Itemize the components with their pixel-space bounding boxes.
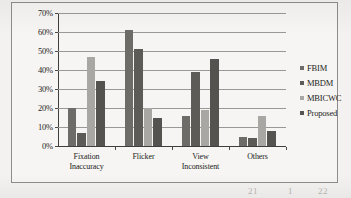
legend-square-marker-icon	[300, 96, 304, 100]
x-axis-category-label: Others	[229, 152, 286, 162]
bar	[125, 30, 134, 146]
x-axis-category-label: View	[172, 152, 229, 162]
bar	[191, 72, 200, 146]
bar	[134, 49, 143, 146]
plot-area: 0%10%20%30%40%50%60%70% FixationInaccura…	[58, 13, 286, 147]
y-axis-tick-label: 10%	[38, 122, 53, 132]
y-axis-tick-label: 20%	[38, 103, 53, 113]
bar	[267, 131, 276, 146]
scan-bleed-text: 21 1 22	[0, 186, 351, 198]
legend-square-marker-icon	[300, 81, 304, 85]
y-axis-tick	[55, 146, 58, 147]
bar	[87, 57, 96, 146]
chart-legend: FBIMMBDMMBICWCProposed	[300, 61, 351, 121]
legend-item[interactable]: Proposed	[300, 106, 351, 120]
x-axis-tick	[229, 147, 230, 150]
x-axis-tick	[286, 147, 287, 150]
legend-item[interactable]: FBIM	[300, 61, 351, 75]
bar	[153, 118, 162, 147]
legend-item[interactable]: MBDM	[300, 76, 351, 90]
bar	[210, 59, 219, 146]
y-axis-tick-label: 0%	[42, 141, 53, 151]
bar	[68, 108, 77, 146]
legend-item[interactable]: MBICWC	[300, 91, 351, 105]
x-axis-category-label-line2: Inaccuracy	[58, 162, 115, 172]
x-axis-category-label-line2: Inconsistent	[172, 162, 229, 172]
scan-artifact-2: 1	[288, 186, 293, 196]
x-axis-category-group-label: FixationInaccuracy	[58, 152, 115, 172]
legend-label: MBICWC	[307, 93, 341, 103]
scan-artifact-3: 22	[318, 186, 328, 196]
bar-group	[229, 13, 286, 146]
bar	[239, 137, 248, 147]
y-axis-tick-label: 50%	[38, 46, 53, 56]
x-axis-tick	[115, 147, 116, 150]
y-axis-tick-label: 30%	[38, 84, 53, 94]
x-axis-tick	[172, 147, 173, 150]
x-axis-category-group-label: ViewInconsistent	[172, 152, 229, 172]
bar	[248, 138, 257, 146]
bar	[144, 108, 153, 146]
x-axis-category-group-label: Flicker	[115, 152, 172, 162]
bar	[201, 110, 210, 146]
bar	[258, 116, 267, 146]
legend-square-marker-icon	[300, 66, 304, 70]
x-axis-category-label: Flicker	[115, 152, 172, 162]
bar	[77, 133, 86, 146]
x-axis-category-label: Fixation	[58, 152, 115, 162]
legend-label: Proposed	[307, 108, 337, 118]
bar	[182, 116, 191, 146]
legend-label: FBIM	[307, 63, 327, 73]
y-axis-tick-label: 70%	[38, 8, 53, 18]
figure-border: 0%10%20%30%40%50%60%70% FixationInaccura…	[11, 2, 338, 183]
legend-square-marker-icon	[300, 111, 304, 115]
bar-group	[172, 13, 229, 146]
y-axis-tick-label: 60%	[38, 27, 53, 37]
bar	[96, 81, 105, 146]
bar-group	[58, 13, 115, 146]
legend-label: MBDM	[307, 78, 333, 88]
scan-artifact-1: 21	[248, 186, 258, 196]
bar-group	[115, 13, 172, 146]
y-axis-tick-label: 40%	[38, 65, 53, 75]
x-axis-category-group-label: Others	[229, 152, 286, 162]
chart-figure: 0%10%20%30%40%50%60%70% FixationInaccura…	[0, 0, 351, 198]
